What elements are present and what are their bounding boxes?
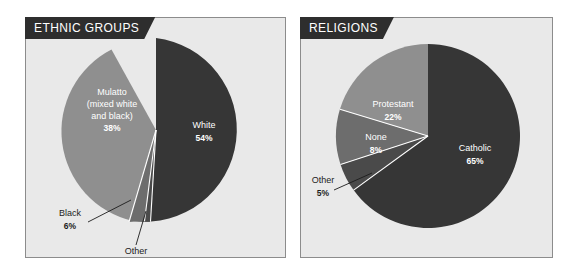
slice-label-black: Black <box>59 208 82 218</box>
slice-pct-none: 8% <box>370 145 383 155</box>
pie-chart-religions: Catholic 65% Protestant 22% None 8% Othe… <box>301 18 552 257</box>
pie-chart-ethnic-groups: White 54% Mulatto (mixed white and black… <box>26 18 285 257</box>
slice-pct-black: 6% <box>64 221 77 231</box>
slice-pct-catholic: 65% <box>466 156 483 166</box>
slice-label-other: Other <box>312 175 335 185</box>
slice-pct-white: 54% <box>195 133 212 143</box>
slice-pct-other: 5% <box>317 188 330 198</box>
slice-label-protestant: Protestant <box>372 99 414 109</box>
panel-ethnic-groups: ETHNIC GROUPS White 54% <box>25 17 286 258</box>
slice-pct-protestant: 22% <box>384 112 401 122</box>
slice-label-white: White <box>192 120 215 130</box>
slice-label-mulatto-line1: Mulatto <box>97 87 127 97</box>
panel-religions: RELIGIONS Catholic 65% Protes <box>300 17 553 258</box>
slice-label-other: Other <box>125 246 148 256</box>
slice-label-mulatto-line3: and black) <box>91 111 133 121</box>
slice-pct-mulatto: 38% <box>103 123 120 133</box>
slice-label-none: None <box>365 132 387 142</box>
slice-label-mulatto-line2: (mixed white <box>87 99 138 109</box>
figure-root: ETHNIC GROUPS White 54% <box>0 0 582 280</box>
slice-label-catholic: Catholic <box>459 143 492 153</box>
